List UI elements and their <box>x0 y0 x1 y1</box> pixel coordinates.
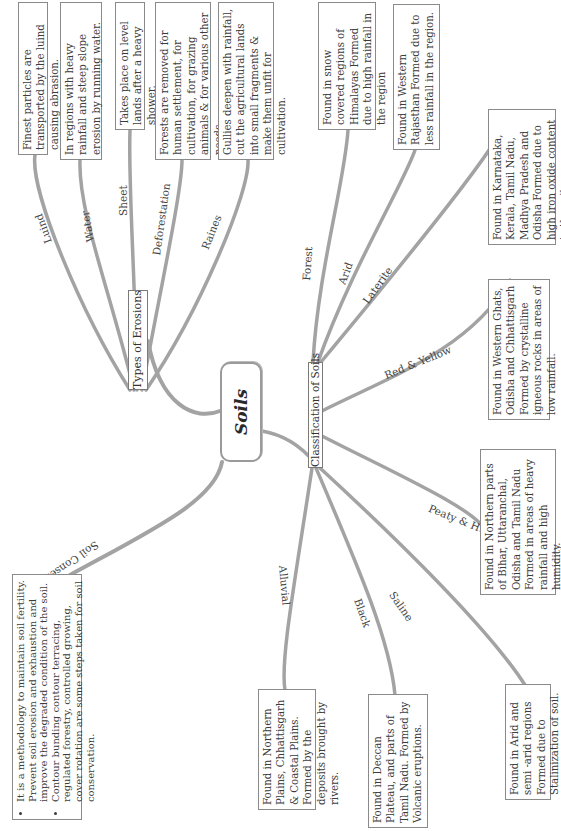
root-node-soils: Soils <box>220 362 262 462</box>
note-black: Found in Deccan Plateau, and parts of Ta… <box>368 694 428 828</box>
note-luind: Finest particles are transported by the … <box>18 2 48 155</box>
note-forest: Found in snow covered regions of Himalay… <box>318 2 376 130</box>
conservation-points: It is a methodology to maintain soil fer… <box>15 579 96 815</box>
branch-label-forest: Forest <box>300 246 314 281</box>
note-arid: Found in Western Rajasthan Formed due to… <box>393 4 440 150</box>
note-water: In regions with heavy rainfall and steep… <box>60 2 102 160</box>
branch-label-sheet: Sheet <box>117 185 129 216</box>
note-alluvial: Found in Northern Plains, Chhattisgarh &… <box>258 689 316 810</box>
note-deforestation: Forests are removed for human settlement… <box>155 2 211 160</box>
note-red-yellow: Found in Western Ghats, Odisha and Chhat… <box>488 279 550 420</box>
hub-classification-of-soils: Classification of Soils <box>308 362 323 468</box>
root-label: Soils <box>231 389 251 435</box>
note-raines: Gullies deepen with rainfall, cut the ag… <box>218 2 274 160</box>
hub-label: Types of Erosions <box>131 290 144 389</box>
note-laterite: Found in Karnataka, Kerala, Tamil Nadu, … <box>488 109 556 245</box>
note-soil-conservation: It is a methodology to maintain soil fer… <box>12 574 82 820</box>
note-sheet: Takes place on level lands after a heavy… <box>115 2 145 130</box>
conservation-point: Contour bunding contour terracing, regul… <box>50 579 96 802</box>
note-saline: Found in Arid and semi -arid regions For… <box>505 684 551 800</box>
note-peaty-humus: Found in Northern parts of Bihar, Uttara… <box>480 449 556 595</box>
mind-map-canvas: Soils Types of Erosions Classification o… <box>0 0 561 831</box>
hub-label: Classification of Soils <box>309 353 321 467</box>
conservation-point: It is a methodology to maintain soil fer… <box>15 579 50 802</box>
hub-types-of-erosions: Types of Erosions <box>128 290 148 390</box>
